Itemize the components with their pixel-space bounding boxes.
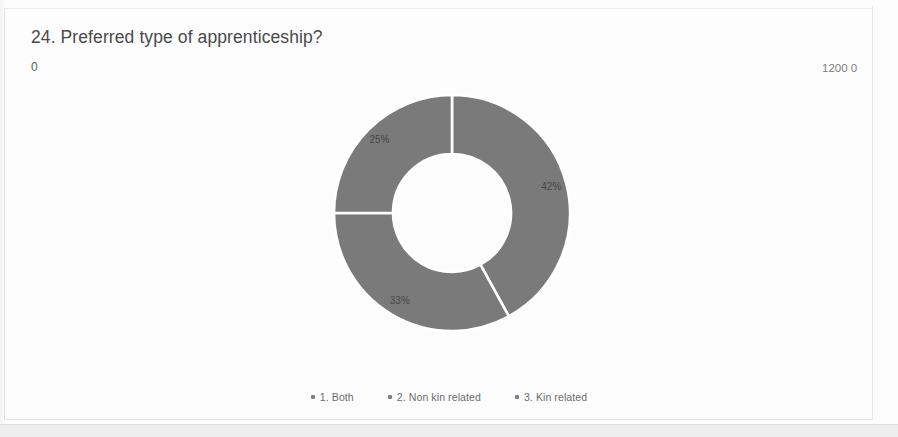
donut-slice-label: 33% bbox=[390, 295, 410, 306]
page-border-bottom bbox=[5, 419, 872, 420]
page-border-left bbox=[4, 8, 5, 420]
axis-max-label: 1200 0 bbox=[822, 62, 857, 74]
page-border-top bbox=[5, 8, 872, 9]
donut-slice-label: 42% bbox=[541, 181, 561, 192]
donut-slice-label: 25% bbox=[370, 134, 390, 145]
legend-item[interactable]: 2. Non kin related bbox=[388, 391, 481, 403]
scan-bottom-band bbox=[0, 424, 898, 437]
legend-item-label: 1. Both bbox=[320, 391, 354, 403]
donut-chart: 42%33%25% bbox=[332, 93, 572, 333]
axis-min-label: 0 bbox=[31, 60, 38, 74]
legend-marker-icon bbox=[515, 395, 519, 399]
chart-title: 24. Preferred type of apprenticeship? bbox=[31, 27, 323, 48]
donut-slice-group bbox=[334, 95, 570, 331]
donut-slice[interactable] bbox=[334, 95, 452, 213]
page-border-right bbox=[872, 6, 873, 420]
chart-legend: 1. Both 2. Non kin related 3. Kin relate… bbox=[0, 391, 898, 403]
legend-item[interactable]: 1. Both bbox=[311, 391, 354, 403]
donut-slice[interactable] bbox=[334, 213, 509, 331]
legend-marker-icon bbox=[311, 395, 315, 399]
legend-item-label: 2. Non kin related bbox=[397, 391, 481, 403]
donut-chart-svg: 42%33%25% bbox=[332, 93, 572, 333]
legend-item[interactable]: 3. Kin related bbox=[515, 391, 587, 403]
legend-item-label: 3. Kin related bbox=[524, 391, 587, 403]
scan-edge-artifact bbox=[0, 0, 6, 436]
legend-marker-icon bbox=[388, 395, 392, 399]
